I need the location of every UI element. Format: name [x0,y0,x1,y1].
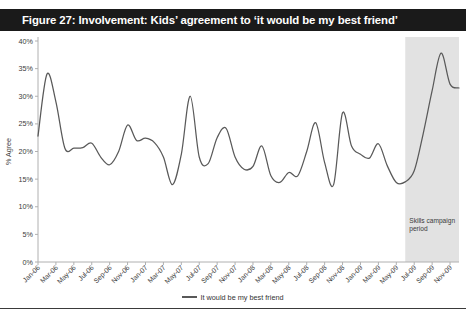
x-axis-tick-label: Sep-06 [92,264,113,285]
x-axis-tick-label: Sep-08 [307,264,328,285]
legend-line-swatch [182,296,197,298]
line-chart-svg: Skills campaignperiod0%5%10%15%20%25%30%… [0,31,466,293]
y-axis-title: % Agree [4,138,13,165]
x-axis-tick-label: Jan-09 [344,264,364,284]
x-axis-tick-label: Nov-08 [325,264,346,285]
x-axis-tick-label: Jan-06 [21,264,41,284]
x-axis-tick-label: Nov-07 [218,264,239,285]
x-axis-tick-label: Jan-08 [236,264,256,284]
x-axis-tick-label: May-08 [271,264,293,286]
x-axis-tick-label: Nov-09 [433,264,454,285]
legend-item-best-friend: It would be my best friend [182,293,283,302]
x-axis-tick-label: Jan-07 [129,264,149,284]
y-axis-tick-label: 20% [19,147,34,156]
x-axis-tick-label: May-07 [163,264,185,286]
bottom-divider [0,308,466,309]
x-axis-tick-label: May-09 [378,264,400,286]
y-axis-tick-label: 30% [19,92,34,101]
page-title: Figure 27: Involvement: Kids’ agreement … [0,14,398,26]
x-axis-tick-label: Sep-09 [415,264,436,285]
chart-legend: It would be my best friend [0,289,466,305]
x-axis-tick-label: Sep-07 [200,264,221,285]
x-axis-tick-label: Nov-06 [110,264,131,285]
x-axis-tick-label: May-06 [56,264,78,286]
data-series-line-best-friend [38,53,459,186]
y-axis-tick-label: 5% [23,230,34,239]
y-axis-tick-label: 25% [19,119,34,128]
y-axis-tick-label: 35% [19,64,34,73]
legend-item-label: It would be my best friend [200,293,283,302]
campaign-annotation-line2: period [409,225,428,233]
y-axis-tick-label: 15% [19,175,34,184]
chart-plot-area: Skills campaignperiod0%5%10%15%20%25%30%… [0,31,466,293]
figure-27-chart: Figure 27: Involvement: Kids’ agreement … [0,0,466,314]
campaign-annotation-line1: Skills campaign [409,217,455,225]
figure-title-bar: Figure 27: Involvement: Kids’ agreement … [0,9,466,31]
y-axis-tick-label: 0% [23,258,34,267]
y-axis-tick-label: 40% [19,37,34,46]
y-axis-tick-label: 10% [19,202,34,211]
